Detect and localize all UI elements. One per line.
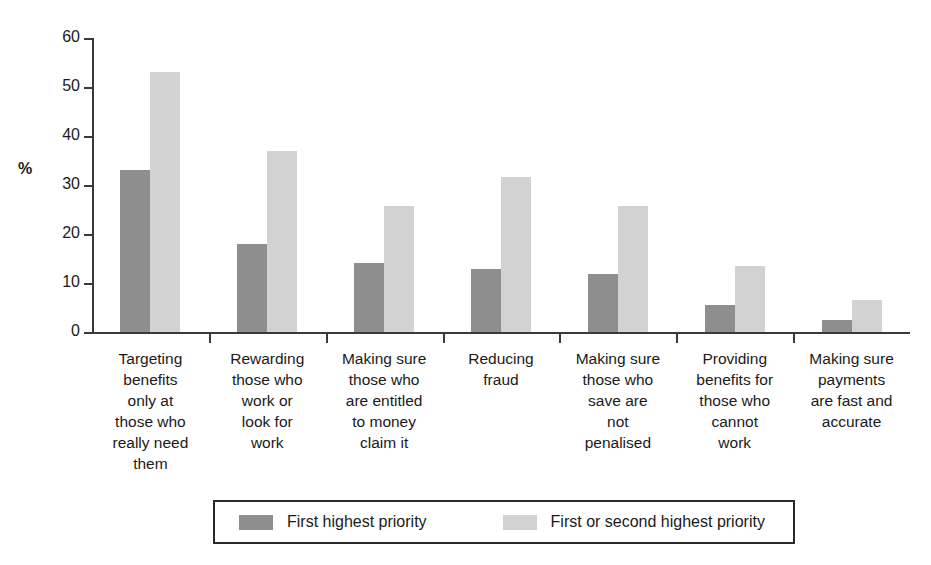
x-axis-separator-tick (676, 332, 678, 343)
y-axis-tick-label: 20 (62, 224, 80, 242)
x-axis-category-labels: Targeting benefits only at those who rea… (92, 348, 910, 478)
y-axis-tick-label: 60 (62, 28, 80, 46)
plot-area: 0102030405060 (92, 38, 910, 332)
bar-group (92, 38, 209, 332)
x-axis-category-label: Making sure those who are entitled to mo… (326, 348, 443, 453)
bar-group (676, 38, 793, 332)
legend-item-first-highest-priority: First highest priority (239, 502, 427, 542)
bar (588, 274, 618, 332)
bar (501, 177, 531, 332)
legend-item-first-or-second-highest-priority: First or second highest priority (503, 502, 765, 542)
bar-chart-figure: % 0102030405060 Targeting benefits only … (0, 0, 931, 565)
legend-swatch-icon (503, 515, 537, 530)
legend-label: First highest priority (287, 513, 427, 531)
x-axis-category-label: Making sure those who save are not penal… (559, 348, 676, 453)
bar (618, 206, 648, 332)
bar (384, 206, 414, 332)
bar-group (559, 38, 676, 332)
bar-group (793, 38, 910, 332)
bar (237, 244, 267, 332)
x-axis-category-label: Reducing fraud (443, 348, 560, 390)
y-axis-tick-label: 10 (62, 273, 80, 291)
x-axis-category-label: Providing benefits for those who cannot … (676, 348, 793, 453)
legend-label: First or second highest priority (551, 513, 765, 531)
bar (120, 170, 150, 332)
legend-swatch-icon (239, 515, 273, 530)
x-axis-separator-tick (559, 332, 561, 343)
x-axis-separator-tick (443, 332, 445, 343)
x-axis-separator-tick (326, 332, 328, 343)
y-axis-tick-label: 0 (71, 322, 80, 340)
x-axis-separator-tick (793, 332, 795, 343)
x-axis-category-label: Making sure payments are fast and accura… (793, 348, 910, 432)
x-axis-category-label: Targeting benefits only at those who rea… (92, 348, 209, 474)
bar (735, 266, 765, 332)
x-axis-line (92, 332, 910, 334)
y-axis-tick-label: 40 (62, 126, 80, 144)
y-axis-tick-label: 30 (62, 175, 80, 193)
bar-group (209, 38, 326, 332)
bar (852, 300, 882, 332)
bar (354, 263, 384, 332)
y-axis-tick-label: 50 (62, 77, 80, 95)
bar (267, 151, 297, 332)
bar (471, 269, 501, 332)
bar (705, 305, 735, 332)
x-axis-category-label: Rewarding those who work or look for wor… (209, 348, 326, 453)
bar-group (443, 38, 560, 332)
y-axis-tick-mark (84, 332, 93, 334)
bar-group (326, 38, 443, 332)
chart-legend: First highest priority First or second h… (213, 500, 795, 544)
y-axis-title: % (18, 160, 32, 178)
bar (822, 320, 852, 332)
x-axis-separator-tick (209, 332, 211, 343)
bar (150, 72, 180, 332)
